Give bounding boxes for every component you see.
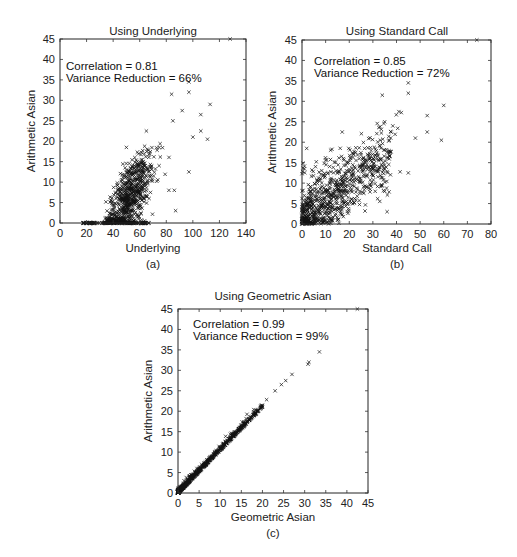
figure-canvas: Using Underlying 02040608010012014005101… bbox=[0, 0, 517, 557]
x-tick-label: 50 bbox=[414, 228, 426, 240]
x-tick-label: 45 bbox=[362, 497, 374, 509]
y-axis-title-b: Arithmetic Asian bbox=[266, 91, 278, 173]
variance-annotation-a: Variance Reduction = 66% bbox=[66, 72, 202, 84]
x-tick-label: 80 bbox=[160, 227, 172, 239]
x-tick-label: 70 bbox=[461, 228, 473, 240]
y-tick-label: 35 bbox=[285, 75, 297, 87]
y-axis-title-c: Arithmetic Asian bbox=[142, 360, 154, 442]
x-axis-title-c: Geometric Asian bbox=[231, 511, 315, 523]
x-tick-label: 80 bbox=[485, 228, 497, 240]
y-tick-label: 15 bbox=[43, 156, 55, 168]
y-tick-label: 30 bbox=[43, 94, 55, 106]
chart-title-c: Using Geometric Asian bbox=[215, 290, 332, 302]
x-tick-label: 40 bbox=[341, 497, 353, 509]
panel-label-a: (a) bbox=[146, 258, 160, 270]
correlation-annotation-a: Correlation = 0.81 bbox=[66, 60, 158, 72]
x-tick-label: 60 bbox=[438, 228, 450, 240]
y-tick-label: 10 bbox=[161, 446, 173, 458]
panel-label-c: (c) bbox=[266, 527, 280, 539]
y-tick-label: 15 bbox=[161, 426, 173, 438]
x-tick-label: 30 bbox=[367, 228, 379, 240]
y-tick-label: 30 bbox=[161, 364, 173, 376]
y-tick-label: 5 bbox=[291, 198, 297, 210]
y-axis-title-a: Arithmetic Asian bbox=[25, 90, 37, 172]
panel-b: Using Standard Call 01020304050607080051… bbox=[266, 25, 497, 270]
y-tick-label: 25 bbox=[161, 385, 173, 397]
panel-c: Using Geometric Asian 051015202530354045… bbox=[142, 290, 374, 539]
panel-a: Using Underlying 02040608010012014005101… bbox=[25, 25, 255, 270]
panel-label-b: (b) bbox=[390, 258, 404, 270]
y-tick-label: 45 bbox=[285, 34, 297, 46]
y-tick-label: 30 bbox=[285, 95, 297, 107]
x-tick-label: 10 bbox=[320, 228, 332, 240]
y-tick-label: 25 bbox=[285, 116, 297, 128]
y-tick-label: 40 bbox=[285, 54, 297, 66]
x-axis-title-b: Standard Call bbox=[362, 242, 432, 254]
y-tick-label: 15 bbox=[285, 157, 297, 169]
y-tick-label: 20 bbox=[285, 136, 297, 148]
x-tick-label: 20 bbox=[343, 228, 355, 240]
x-tick-label: 5 bbox=[196, 497, 202, 509]
y-tick-label: 25 bbox=[43, 115, 55, 127]
y-tick-label: 35 bbox=[161, 344, 173, 356]
y-tick-label: 45 bbox=[43, 33, 55, 45]
x-tick-label: 20 bbox=[256, 497, 268, 509]
x-tick-label: 10 bbox=[214, 497, 226, 509]
y-tick-label: 20 bbox=[43, 135, 55, 147]
y-tick-label: 35 bbox=[43, 74, 55, 86]
x-tick-label: 0 bbox=[175, 497, 181, 509]
y-tick-label: 40 bbox=[161, 323, 173, 335]
y-tick-label: 5 bbox=[167, 467, 173, 479]
variance-annotation-b: Variance Reduction = 72% bbox=[314, 67, 450, 79]
correlation-annotation-b: Correlation = 0.85 bbox=[314, 55, 406, 67]
x-tick-label: 40 bbox=[390, 228, 402, 240]
x-tick-label: 30 bbox=[299, 497, 311, 509]
x-tick-label: 40 bbox=[107, 227, 119, 239]
x-tick-label: 100 bbox=[184, 227, 202, 239]
y-tick-label: 0 bbox=[49, 217, 55, 229]
x-tick-label: 0 bbox=[57, 227, 63, 239]
y-tick-label: 0 bbox=[291, 218, 297, 230]
chart-title-a: Using Underlying bbox=[109, 25, 197, 37]
x-tick-label: 120 bbox=[210, 227, 228, 239]
x-tick-label: 140 bbox=[237, 227, 255, 239]
chart-title-b: Using Standard Call bbox=[346, 25, 448, 37]
x-tick-label: 0 bbox=[299, 228, 305, 240]
y-tick-label: 5 bbox=[49, 197, 55, 209]
x-tick-label: 15 bbox=[235, 497, 247, 509]
y-tick-label: 40 bbox=[43, 53, 55, 65]
x-tick-label: 60 bbox=[134, 227, 146, 239]
x-tick-label: 35 bbox=[320, 497, 332, 509]
variance-annotation-c: Variance Reduction = 99% bbox=[193, 330, 329, 342]
x-tick-label: 20 bbox=[80, 227, 92, 239]
correlation-annotation-c: Correlation = 0.99 bbox=[193, 318, 285, 330]
y-tick-label: 10 bbox=[285, 177, 297, 189]
y-tick-label: 20 bbox=[161, 405, 173, 417]
x-axis-title-a: Underlying bbox=[126, 242, 181, 254]
y-tick-label: 10 bbox=[43, 176, 55, 188]
x-tick-label: 25 bbox=[277, 497, 289, 509]
y-tick-label: 0 bbox=[167, 487, 173, 499]
y-tick-label: 45 bbox=[161, 303, 173, 315]
